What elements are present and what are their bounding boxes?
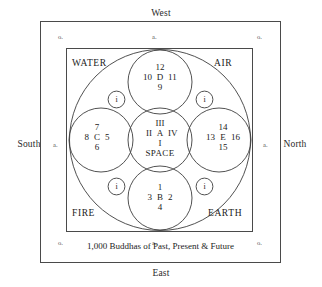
petal-top-value-top: 12 (129, 62, 191, 72)
petal-top-letter: D (152, 72, 168, 82)
petal-center-row-middle: IIAIV (129, 128, 191, 138)
petal-left-value-right: 5 (105, 132, 121, 142)
petal-group-bottom: 1 3B2 4 (129, 182, 191, 212)
small-circle-label-lower-left: i (108, 178, 125, 195)
petal-bottom-value-right: 2 (168, 192, 184, 202)
petal-group-center: III IIAIV I SPACE (129, 118, 191, 158)
petal-right-letter: E (215, 132, 231, 142)
petal-left-value-bottom: 6 (66, 142, 128, 152)
small-circle-label-upper-left: i (108, 91, 125, 108)
element-label-space: SPACE (129, 148, 191, 158)
petal-bottom-value-top: 1 (129, 182, 191, 192)
petal-right-value-right: 16 (231, 132, 247, 142)
petal-top-value-bottom: 9 (129, 82, 191, 92)
petal-group-left: 7 8C5 6 (66, 122, 128, 152)
petal-group-top: 12 10D11 9 (129, 62, 191, 92)
petal-bottom-value-left: 3 (136, 192, 152, 202)
petal-top-row-middle: 10D11 (129, 72, 191, 82)
petal-right-value-bottom: 15 (192, 142, 254, 152)
petal-left-letter: C (89, 132, 105, 142)
petal-left-value-top: 7 (66, 122, 128, 132)
petal-top-value-left: 10 (136, 72, 152, 82)
petal-group-right: 14 13E16 15 (192, 122, 254, 152)
petal-center-value-top: III (129, 118, 191, 128)
petal-right-row-middle: 13E16 (192, 132, 254, 142)
petal-top-value-right: 11 (168, 72, 184, 82)
petal-bottom-value-bottom: 4 (129, 202, 191, 212)
petal-center-value-left: II (136, 128, 152, 138)
petal-right-value-top: 14 (192, 122, 254, 132)
petal-center-value-bottom: I (129, 138, 191, 148)
petal-bottom-row-middle: 3B2 (129, 192, 191, 202)
small-circle-label-upper-right: i (196, 91, 213, 108)
petal-center-value-right: IV (168, 128, 184, 138)
mandala-diagram: West East South North o. o. o. o. a. a. … (0, 0, 322, 287)
small-circle-label-lower-right: i (196, 178, 213, 195)
petal-right-value-left: 13 (199, 132, 215, 142)
petal-center-letter: A (152, 128, 168, 138)
petal-bottom-letter: B (152, 192, 168, 202)
petal-left-row-middle: 8C5 (66, 132, 128, 142)
petal-left-value-left: 8 (73, 132, 89, 142)
